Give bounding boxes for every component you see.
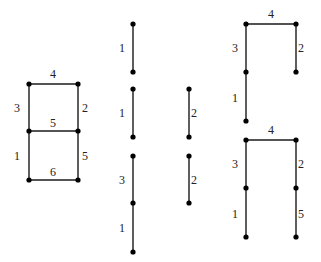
edge-label: 3 <box>119 173 125 187</box>
graph-node <box>243 234 248 239</box>
edge-label: 1 <box>14 149 20 163</box>
graph-node <box>26 81 31 86</box>
edge-label: 2 <box>82 101 88 115</box>
edge-label: 1 <box>119 41 125 55</box>
edge-label: 3 <box>232 157 238 171</box>
labels-layer: 4325156112312432143215 <box>14 7 304 235</box>
graph-node <box>75 177 80 182</box>
graph-node <box>293 234 298 239</box>
edge-label: 1 <box>232 207 238 221</box>
graph-node <box>75 81 80 86</box>
graph-node <box>130 69 135 74</box>
graph-node <box>26 177 31 182</box>
graph-node <box>130 134 135 139</box>
graph-node <box>243 69 248 74</box>
graph-node <box>130 249 135 254</box>
graph-node <box>243 137 248 142</box>
graph-node <box>186 86 191 91</box>
diagram-canvas: 4325156112312432143215 <box>0 0 321 262</box>
graph-node <box>293 137 298 142</box>
edge-label: 1 <box>232 91 238 105</box>
graph-node <box>243 21 248 26</box>
edge-label: 5 <box>50 116 56 130</box>
graph-node <box>186 200 191 205</box>
graph-node <box>130 200 135 205</box>
graph-node <box>26 128 31 133</box>
edge-label: 1 <box>119 106 125 120</box>
edge-label: 6 <box>50 165 56 179</box>
graph-node <box>293 21 298 26</box>
nodes-layer <box>26 21 298 254</box>
edge-label: 1 <box>119 221 125 235</box>
graph-node <box>243 185 248 190</box>
graph-node <box>186 153 191 158</box>
edge-label: 2 <box>191 173 197 187</box>
graph-node <box>186 134 191 139</box>
edges-layer <box>29 24 296 252</box>
edge-label: 4 <box>50 67 56 81</box>
edge-label: 3 <box>14 101 20 115</box>
edge-label: 2 <box>191 106 197 120</box>
edge-label: 3 <box>232 41 238 55</box>
edge-label: 5 <box>82 149 88 163</box>
graph-node <box>75 128 80 133</box>
graph-node <box>130 21 135 26</box>
graph-node <box>243 118 248 123</box>
graph-node <box>293 69 298 74</box>
graph-node <box>293 185 298 190</box>
edge-label: 4 <box>268 123 274 137</box>
graph-node <box>130 153 135 158</box>
edge-label: 4 <box>268 7 274 21</box>
edge-label: 5 <box>298 207 304 221</box>
edge-label: 2 <box>298 157 304 171</box>
edge-label: 2 <box>298 41 304 55</box>
graph-node <box>130 86 135 91</box>
